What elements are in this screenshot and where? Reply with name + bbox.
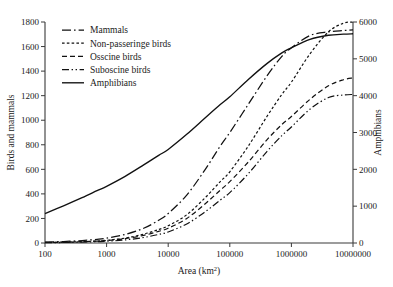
y-axis-title-right: Amphibians (373, 109, 383, 156)
legend-label-suboscine-birds: Suboscine birds (90, 65, 151, 75)
y-tick-label-left: 1200 (21, 91, 40, 101)
y-tick-label-left: 600 (26, 165, 40, 175)
x-tick-label: 10000000 (335, 249, 372, 259)
legend-label-amphibians: Amphibians (90, 78, 137, 88)
y-tick-label-left: 0 (35, 238, 40, 248)
y-tick-label-left: 1000 (21, 115, 40, 125)
y-tick-label-left: 1800 (21, 17, 40, 27)
x-tick-label: 1000000 (276, 249, 308, 259)
legend-label-osscine-birds: Osscine birds (90, 52, 142, 62)
y-tick-label-right: 0 (359, 238, 364, 248)
x-tick-label: 100 (38, 249, 52, 259)
chart-legend: MammalsNon-passeringe birdsOsscine birds… (62, 25, 171, 88)
series-line-osscine-birds (45, 78, 353, 243)
y-tick-label-right: 5000 (359, 54, 378, 64)
y-axis-title-left: Birds and mammals (6, 94, 16, 170)
y-tick-label-left: 1400 (21, 66, 40, 76)
y-tick-label-right: 2000 (359, 165, 378, 175)
species-area-chart: 1001000100001000001000000100000000200400… (0, 0, 393, 287)
y-tick-label-left: 800 (26, 140, 40, 150)
legend-label-non-passeringe-birds: Non-passeringe birds (90, 39, 171, 49)
y-tick-label-left: 1600 (21, 42, 40, 52)
chart-canvas: 1001000100001000001000000100000000200400… (0, 0, 393, 287)
y-tick-label-left: 400 (26, 189, 40, 199)
x-tick-label: 100000 (216, 249, 244, 259)
y-tick-label-right: 1000 (359, 201, 378, 211)
x-axis-title: Area (km2) (178, 265, 221, 277)
legend-label-mammals: Mammals (90, 25, 128, 35)
x-tick-label: 10000 (157, 249, 180, 259)
y-tick-label-right: 6000 (359, 17, 378, 27)
axes-layer (41, 22, 357, 247)
series-line-suboscine-birds (45, 94, 353, 242)
y-tick-label-right: 4000 (359, 91, 378, 101)
y-tick-label-left: 200 (26, 214, 40, 224)
x-tick-label: 1000 (98, 249, 117, 259)
